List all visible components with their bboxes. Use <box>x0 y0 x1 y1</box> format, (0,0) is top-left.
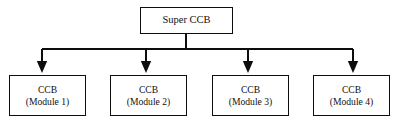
arrowhead-icon-4 <box>348 61 358 73</box>
node-ccb-module-2: CCB (Module 2) <box>110 75 187 116</box>
node-ccb-module-3-subtitle: (Module 3) <box>229 96 272 107</box>
node-ccb-module-3-title: CCB <box>241 84 260 95</box>
node-ccb-module-1-title: CCB <box>38 84 57 95</box>
node-ccb-module-4-subtitle: (Module 4) <box>330 96 373 107</box>
node-ccb-module-2-title: CCB <box>139 84 158 95</box>
node-super-ccb: Super CCB <box>140 7 233 34</box>
node-ccb-module-4: CCB (Module 4) <box>313 75 390 116</box>
node-ccb-module-1-subtitle: (Module 1) <box>26 96 69 107</box>
arrowhead-icon-2 <box>141 61 151 73</box>
node-ccb-module-4-title: CCB <box>342 84 361 95</box>
node-super-ccb-label: Super CCB <box>162 14 210 26</box>
hierarchy-diagram: Super CCB CCB (Module 1) CCB (Module 2) … <box>0 0 397 128</box>
arrowhead-icon-1 <box>37 61 47 73</box>
node-ccb-module-2-subtitle: (Module 2) <box>127 96 170 107</box>
node-ccb-module-3: CCB (Module 3) <box>212 75 289 116</box>
node-ccb-module-1: CCB (Module 1) <box>9 75 86 116</box>
arrowhead-icon-3 <box>243 61 253 73</box>
